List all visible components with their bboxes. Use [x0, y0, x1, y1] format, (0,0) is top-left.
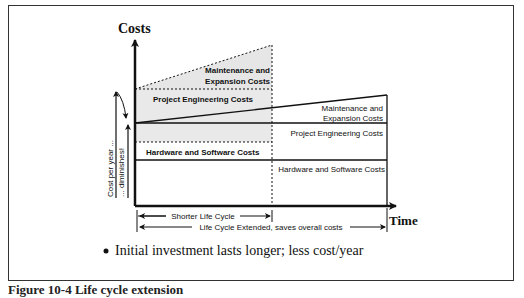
extended-life-cycle-label: Life Cycle Extended, saves overall costs [199, 223, 342, 232]
short-engineering-label: Project Engineering Costs [153, 95, 254, 104]
short-hardware-label: Hardware and Software Costs [146, 148, 260, 157]
y-axis-label: Costs [118, 21, 151, 36]
shorter-life-cycle-label: Shorter Life Cycle [171, 212, 235, 221]
ext-maintenance-line2: Expansion Costs [323, 114, 383, 123]
diminishes-label: ... diminishes! [117, 148, 126, 197]
ext-maintenance-line1: Maintenance and [322, 104, 383, 113]
bullet-text: Initial investment lasts longer; less co… [115, 243, 364, 258]
x-axis-label: Time [389, 213, 418, 228]
figure-caption: Figure 10-4 Life cycle extension [8, 282, 183, 298]
short-maintenance-line2: Expansion Costs [205, 77, 270, 86]
cost-per-year-label: Cost per year ... [106, 140, 115, 197]
short-maintenance-line1: Maintenance and [205, 66, 270, 75]
bullet-dot [104, 249, 109, 254]
ext-hardware-label: Hardware and Software Costs [278, 165, 385, 174]
ext-engineering-label: Project Engineering Costs [291, 129, 384, 138]
